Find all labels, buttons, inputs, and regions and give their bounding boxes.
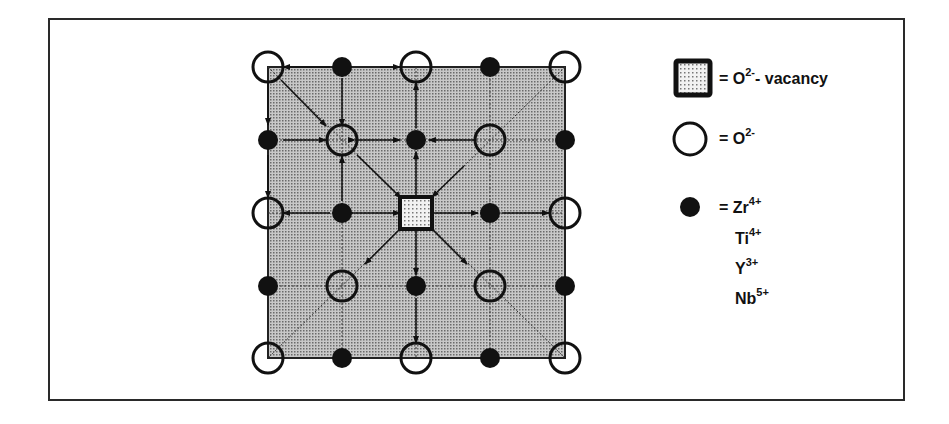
legend-symbols: [674, 61, 710, 217]
legend-vacancy-label: = O2-- vacancy: [719, 70, 828, 88]
legend-cation-y: Y3+: [735, 260, 758, 278]
cation-symbol-icon: [680, 197, 700, 217]
oxygen-symbol-icon: [674, 123, 706, 155]
legend-cation-ti: Ti4+: [735, 230, 761, 248]
legend-cation-zr: = Zr4+: [719, 199, 761, 217]
vacancy-symbol-icon: [676, 61, 710, 95]
legend-oxygen-label: = O2-: [719, 130, 755, 148]
oxygen-vacancy: [400, 197, 432, 229]
legend-cation-nb: Nb5+: [735, 290, 769, 308]
lattice-diagram: [0, 0, 949, 424]
